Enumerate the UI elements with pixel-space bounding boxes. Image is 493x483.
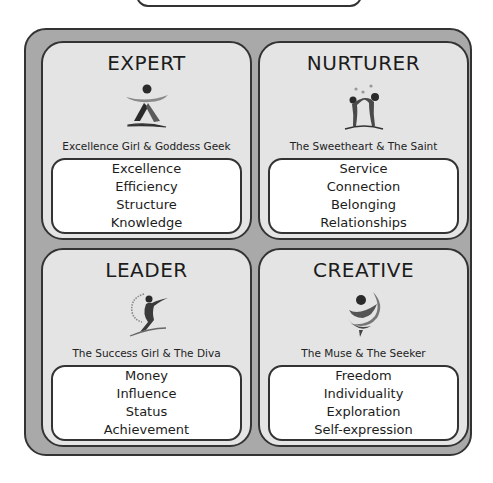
quadrant-title: EXPERT (43, 51, 250, 75)
value-item: Exploration (327, 403, 401, 421)
value-item: Relationships (320, 214, 407, 232)
values-box: Excellence Efficiency Structure Knowledg… (51, 158, 242, 234)
value-item: Achievement (104, 421, 189, 439)
value-item: Belonging (331, 196, 396, 214)
value-item: Service (339, 160, 387, 178)
value-item: Money (125, 367, 168, 385)
quadrant-subtitle: The Sweetheart & The Saint (260, 140, 467, 152)
quadrant-title: NURTURER (260, 51, 467, 75)
values-box: Freedom Individuality Exploration Self-e… (268, 365, 459, 441)
leader-figure-icon (122, 290, 172, 338)
quadrant-expert: EXPERT Excellence Girl & Goddess Geek Ex… (41, 41, 252, 240)
value-item: Status (126, 403, 167, 421)
value-item: Individuality (324, 385, 404, 403)
quadrant-title: CREATIVE (260, 258, 467, 282)
value-item: Self-expression (314, 421, 413, 439)
quadrant-title: LEADER (43, 258, 250, 282)
values-box: Service Connection Belonging Relationshi… (268, 158, 459, 234)
value-item: Excellence (112, 160, 181, 178)
quadrant-subtitle: The Success Girl & The Diva (43, 347, 250, 359)
quadrant-subtitle: Excellence Girl & Goddess Geek (43, 140, 250, 152)
value-item: Knowledge (111, 214, 182, 232)
top-title-tab (136, 0, 362, 7)
value-item: Freedom (335, 367, 391, 385)
quadrant-creative: CREATIVE The Muse & The Seeker Freedom I… (258, 248, 469, 447)
creative-swirl-icon (339, 290, 389, 338)
value-item: Efficiency (115, 178, 178, 196)
value-item: Structure (116, 196, 176, 214)
nurturer-figures-icon (339, 83, 389, 131)
value-item: Influence (117, 385, 177, 403)
expert-figure-icon (122, 83, 172, 131)
quadrant-leader: LEADER The Success Girl & The Diva Money… (41, 248, 252, 447)
quadrant-subtitle: The Muse & The Seeker (260, 347, 467, 359)
value-item: Connection (327, 178, 401, 196)
quadrant-nurturer: NURTURER The Sweetheart & The Saint Serv… (258, 41, 469, 240)
values-box: Money Influence Status Achievement (51, 365, 242, 441)
archetype-grid: EXPERT Excellence Girl & Goddess Geek Ex… (24, 28, 472, 456)
